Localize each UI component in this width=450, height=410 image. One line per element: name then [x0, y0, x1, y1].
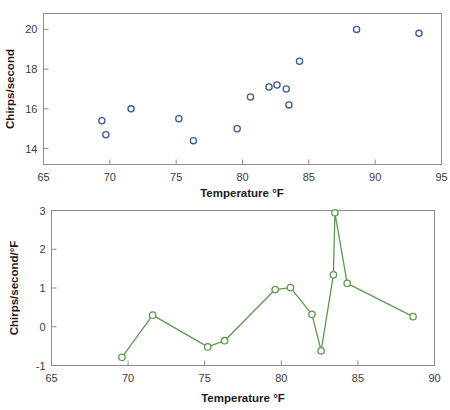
derivative-plot-svg: 657075808590 -10123 Temperature °F Chirp… [0, 200, 450, 410]
y-tick-label: 14 [25, 143, 37, 155]
data-point [247, 94, 253, 100]
data-point [353, 26, 359, 32]
data-point [99, 118, 105, 124]
x-tick-label: 95 [435, 171, 447, 183]
x-tick-label: 90 [428, 372, 440, 384]
x-tick-label: 80 [236, 171, 248, 183]
data-point [176, 116, 182, 122]
data-point [309, 311, 315, 317]
y-tick-label: 20 [25, 23, 37, 35]
y-tick-label: 3 [39, 205, 45, 217]
x-tick-label: 65 [45, 372, 57, 384]
x-tick-label: 70 [122, 372, 134, 384]
cricket-chirps-figure: 65707580859095 14161820 Temperature °F C… [0, 0, 450, 410]
y-tick-label: 2 [39, 243, 45, 255]
scatter-data-points [99, 26, 422, 143]
derivative-y-tick-labels: -10123 [36, 205, 46, 372]
data-point [332, 210, 338, 216]
data-point [128, 106, 134, 112]
x-tick-label: 85 [303, 171, 315, 183]
data-point [149, 312, 155, 318]
data-point [266, 84, 272, 90]
y-tick-label: -1 [36, 360, 46, 372]
y-tick-label: 0 [39, 321, 45, 333]
scatter-y-ticks [44, 29, 49, 148]
scatter-axis-frame [44, 14, 442, 165]
data-point [296, 58, 302, 64]
y-tick-label: 18 [25, 63, 37, 75]
scatter-x-ticks [44, 160, 442, 165]
scatter-x-tick-labels: 65707580859095 [37, 171, 447, 183]
x-tick-label: 80 [275, 372, 287, 384]
derivative-panel: 657075808590 -10123 Temperature °F Chirp… [0, 200, 450, 410]
x-tick-label: 75 [199, 372, 211, 384]
data-point [272, 286, 278, 292]
data-point [205, 344, 211, 350]
data-point [344, 280, 350, 286]
derivative-y-ticks [52, 211, 57, 366]
scatter-plot-svg: 65707580859095 14161820 Temperature °F C… [0, 0, 450, 205]
data-point [190, 138, 196, 144]
x-tick-label: 70 [104, 171, 116, 183]
derivative-axis-frame [52, 211, 435, 366]
derivative-x-axis-title: Temperature °F [201, 392, 285, 404]
data-point [234, 126, 240, 132]
data-point [283, 86, 289, 92]
x-tick-label: 85 [352, 372, 364, 384]
data-point [103, 132, 109, 138]
scatter-x-axis-title: Temperature °F [200, 187, 284, 199]
scatter-panel: 65707580859095 14161820 Temperature °F C… [0, 0, 450, 205]
y-tick-label: 1 [39, 282, 45, 294]
derivative-data-points [119, 210, 416, 361]
data-point [416, 30, 422, 36]
data-point [221, 338, 227, 344]
derivative-x-tick-labels: 657075808590 [45, 372, 440, 384]
data-point [410, 313, 416, 319]
scatter-y-tick-labels: 14161820 [25, 23, 37, 154]
scatter-y-axis-title: Chirps/second [4, 49, 16, 129]
derivative-y-axis-title: Chirps/second/°F [8, 241, 20, 336]
derivative-x-ticks [52, 361, 435, 366]
data-point [318, 348, 324, 354]
data-point [286, 102, 292, 108]
x-tick-label: 90 [369, 171, 381, 183]
x-tick-label: 75 [170, 171, 182, 183]
data-point [287, 284, 293, 290]
data-point [330, 272, 336, 278]
data-point [274, 82, 280, 88]
x-tick-label: 65 [37, 171, 49, 183]
y-tick-label: 16 [25, 103, 37, 115]
derivative-series-line [122, 213, 413, 358]
data-point [119, 354, 125, 360]
